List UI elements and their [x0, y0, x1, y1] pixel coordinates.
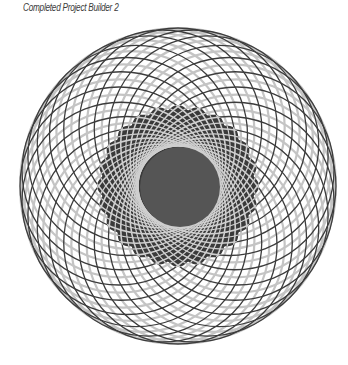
inner-dark-disk	[140, 147, 220, 227]
spirograph-artwork	[0, 0, 348, 365]
